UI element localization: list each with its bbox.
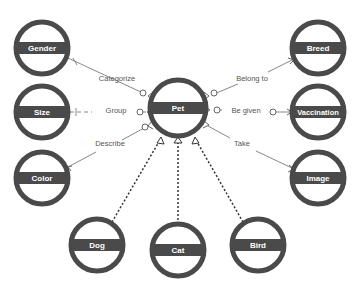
- edge-take: [208, 126, 294, 169]
- optional-circle-icon: [140, 90, 146, 96]
- entity-color[interactable]: Color: [10, 152, 74, 204]
- entity-vaccination[interactable]: Vaccination: [286, 86, 350, 138]
- edge-label-take: Take: [234, 139, 250, 148]
- edge-label-categorize: Categorize: [99, 74, 135, 83]
- entity-pet[interactable]: Pet: [146, 80, 210, 136]
- edge-label-group: Group: [106, 106, 127, 115]
- entity-size[interactable]: Size: [10, 86, 74, 138]
- entity-bird[interactable]: Bird: [226, 219, 290, 271]
- entity-gender[interactable]: Gender: [10, 22, 74, 74]
- entity-breed[interactable]: Breed: [286, 22, 350, 74]
- edge-bird-pet: [196, 140, 243, 222]
- entity-cat[interactable]: Cat: [146, 224, 210, 276]
- inheritance-edges: [112, 140, 243, 224]
- edge-label-describe: Describe: [95, 139, 125, 148]
- triangle-arrow-icon: [157, 137, 164, 144]
- edge-label-belong-to: Belong to: [236, 74, 268, 83]
- optional-circle-icon: [142, 124, 148, 130]
- entity-label: Cat: [172, 246, 185, 255]
- edge-dog-pet: [112, 140, 160, 222]
- entity-image[interactable]: Image: [286, 152, 350, 204]
- er-diagram: Categorize Group Describe Belong to Be g…: [0, 0, 353, 297]
- entity-label: Size: [34, 108, 51, 117]
- optional-circle-icon: [270, 109, 276, 115]
- entity-label: Color: [32, 174, 53, 183]
- entity-label: Dog: [89, 241, 105, 250]
- entity-label: Breed: [307, 44, 330, 53]
- entity-label: Image: [306, 174, 330, 183]
- optional-circle-icon: [137, 109, 143, 115]
- triangle-arrow-icon: [192, 137, 199, 144]
- entity-label: Gender: [28, 44, 56, 53]
- edge-label-be-given: Be given: [231, 106, 260, 115]
- optional-circle-icon: [214, 107, 220, 113]
- entity-label: Bird: [250, 241, 266, 250]
- entity-dog[interactable]: Dog: [65, 219, 129, 271]
- entity-label: Vaccination: [297, 108, 339, 117]
- entity-label: Pet: [172, 104, 185, 113]
- optional-circle-icon: [211, 90, 217, 96]
